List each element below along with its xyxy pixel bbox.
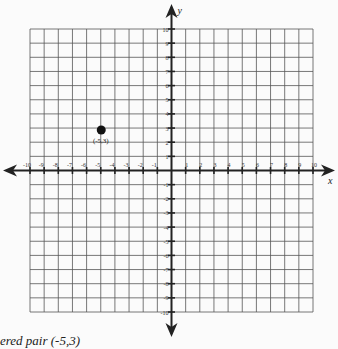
svg-text:-7: -7 bbox=[164, 267, 169, 273]
svg-text:-6: -6 bbox=[81, 162, 86, 168]
svg-text:-3: -3 bbox=[164, 210, 169, 216]
svg-text:6: 6 bbox=[166, 83, 169, 89]
svg-text:-3: -3 bbox=[124, 162, 129, 168]
svg-text:6: 6 bbox=[256, 162, 259, 168]
svg-text:-8: -8 bbox=[164, 281, 169, 287]
y-axis-label: y bbox=[177, 5, 183, 16]
svg-text:4: 4 bbox=[228, 162, 231, 168]
svg-text:4: 4 bbox=[166, 111, 169, 117]
x-axis-label: x bbox=[327, 175, 333, 186]
point-marker bbox=[97, 126, 106, 135]
svg-text:3: 3 bbox=[213, 162, 216, 168]
svg-text:1: 1 bbox=[166, 154, 169, 160]
svg-text:-5: -5 bbox=[164, 239, 169, 245]
svg-text:1: 1 bbox=[185, 162, 188, 168]
svg-text:-7: -7 bbox=[67, 162, 72, 168]
svg-text:8: 8 bbox=[284, 162, 287, 168]
svg-text:2: 2 bbox=[166, 140, 169, 146]
svg-text:-9: -9 bbox=[39, 162, 44, 168]
svg-text:-4: -4 bbox=[109, 162, 114, 168]
svg-text:8: 8 bbox=[166, 55, 169, 61]
svg-text:-5: -5 bbox=[95, 162, 100, 168]
svg-text:-9: -9 bbox=[164, 295, 169, 301]
svg-text:-2: -2 bbox=[138, 162, 143, 168]
svg-text:7: 7 bbox=[270, 162, 273, 168]
svg-text:-10: -10 bbox=[23, 162, 31, 168]
svg-text:9: 9 bbox=[166, 41, 169, 47]
caption: ered pair (-5,3) bbox=[0, 333, 80, 349]
svg-text:-6: -6 bbox=[164, 253, 169, 259]
svg-text:2: 2 bbox=[199, 162, 202, 168]
svg-text:-1: -1 bbox=[164, 182, 169, 188]
point-label: (-5,3) bbox=[93, 137, 109, 145]
svg-text:3: 3 bbox=[166, 126, 169, 132]
svg-text:-2: -2 bbox=[164, 196, 169, 202]
svg-text:-1: -1 bbox=[152, 162, 157, 168]
svg-text:-4: -4 bbox=[164, 225, 169, 231]
svg-text:5: 5 bbox=[166, 97, 169, 103]
svg-text:5: 5 bbox=[242, 162, 245, 168]
svg-text:7: 7 bbox=[166, 69, 169, 75]
svg-text:10: 10 bbox=[311, 162, 317, 168]
svg-text:-10: -10 bbox=[161, 310, 169, 316]
svg-text:-8: -8 bbox=[53, 162, 58, 168]
svg-text:9: 9 bbox=[298, 162, 301, 168]
svg-text:10: 10 bbox=[163, 27, 169, 33]
